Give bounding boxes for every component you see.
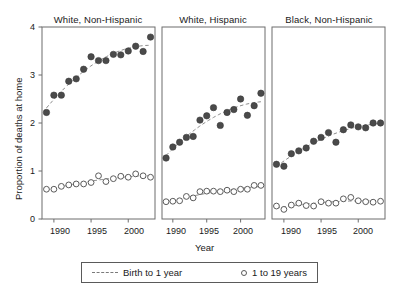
data-point-p2-s1-2002 [370, 199, 376, 205]
data-point-p0-s1-1997 [103, 179, 109, 185]
data-point-p1-s0-1997 [217, 122, 223, 128]
data-point-p0-s0-1998 [110, 51, 116, 57]
data-point-p2-s0-1995 [318, 134, 324, 140]
data-point-p0-s1-2002 [140, 173, 146, 179]
data-point-p1-s0-1992 [183, 134, 189, 140]
data-point-p1-s1-2002 [251, 183, 257, 189]
data-point-p1-s1-2000 [238, 186, 244, 192]
data-point-p0-s1-2000 [125, 174, 131, 180]
data-point-p0-s1-1995 [88, 180, 94, 186]
data-point-p0-s1-1998 [110, 176, 116, 182]
data-point-p0-s0-2003 [147, 34, 153, 40]
data-point-p2-s0-1992 [296, 148, 302, 154]
data-point-p0-s1-2001 [133, 171, 139, 177]
data-point-p0-s1-1999 [118, 173, 124, 179]
data-point-p0-s0-1991 [58, 92, 64, 98]
data-point-p0-s1-2003 [148, 174, 154, 180]
data-point-p0-s0-1992 [66, 78, 72, 84]
data-point-p0-s0-1990 [51, 92, 57, 98]
data-point-p0-s0-1993 [73, 76, 79, 82]
data-point-p2-s1-1995 [318, 199, 324, 205]
data-point-p1-s1-1999 [231, 189, 237, 195]
data-point-p1-s1-1989 [163, 199, 169, 205]
data-point-p2-s1-2000 [355, 198, 361, 204]
data-point-p2-s0-1989 [273, 161, 279, 167]
dashed-line-icon [92, 272, 118, 273]
data-point-p0-s1-1990 [51, 186, 57, 192]
data-point-p2-s1-1989 [274, 203, 280, 209]
data-point-p1-s1-2001 [244, 186, 250, 192]
data-point-p1-s0-2001 [244, 112, 250, 118]
data-point-p0-s0-1989 [43, 109, 49, 115]
data-point-p2-s0-2001 [362, 125, 368, 131]
data-point-p2-s1-2001 [363, 199, 369, 205]
data-point-p1-s0-1989 [163, 155, 169, 161]
data-point-p0-s0-1996 [95, 57, 101, 63]
data-point-p0-s0-1995 [88, 54, 94, 60]
data-point-p2-s0-2003 [377, 120, 383, 126]
data-point-p2-s1-2003 [378, 198, 384, 204]
data-point-p0-s0-2000 [125, 48, 131, 54]
legend: Birth to 1 year 1 to 19 years [81, 262, 318, 283]
data-point-p2-s0-1996 [325, 129, 331, 135]
data-point-p1-s0-1999 [231, 106, 237, 112]
data-point-p0-s1-1996 [96, 173, 102, 179]
data-point-p1-s1-1993 [190, 195, 196, 201]
data-point-p1-s1-1997 [217, 189, 223, 195]
data-point-p2-s0-1991 [288, 151, 294, 157]
data-point-p1-s1-2003 [258, 183, 264, 189]
data-point-p1-s1-1992 [183, 194, 189, 200]
data-point-p1-s0-1991 [176, 139, 182, 145]
data-point-p1-s0-2000 [237, 96, 243, 102]
data-point-p1-s1-1991 [177, 198, 183, 204]
data-point-p1-s0-2003 [258, 90, 264, 96]
data-point-p2-s0-1990 [281, 163, 287, 169]
data-point-p2-s1-1993 [303, 203, 309, 209]
plot-canvas [0, 0, 400, 293]
data-point-p2-s0-1997 [333, 139, 339, 145]
data-point-p2-s0-2000 [355, 124, 361, 130]
data-point-p2-s0-2002 [370, 120, 376, 126]
data-point-p2-s0-1998 [340, 127, 346, 133]
legend-label-1: 1 to 19 years [252, 267, 307, 278]
data-point-p0-s0-2002 [140, 48, 146, 54]
legend-item-birth-to-1-year[interactable]: Birth to 1 year [92, 267, 182, 278]
data-point-p2-s1-1991 [288, 202, 294, 208]
data-point-p1-s0-1994 [197, 117, 203, 123]
data-point-p1-s1-1996 [211, 188, 217, 194]
data-point-p1-s1-1995 [204, 188, 210, 194]
panel-frame-0 [42, 27, 155, 219]
data-point-p2-s0-1993 [303, 145, 309, 151]
legend-item-1-to-19-years[interactable]: 1 to 19 years [241, 267, 307, 278]
data-point-p1-s1-1990 [170, 198, 176, 204]
data-point-p1-s1-1998 [224, 187, 230, 193]
data-point-p0-s1-1989 [44, 186, 50, 192]
data-point-p0-s1-1993 [73, 181, 79, 187]
data-point-p1-s0-1995 [204, 113, 210, 119]
data-point-p2-s0-1994 [310, 138, 316, 144]
data-point-p1-s0-1993 [190, 133, 196, 139]
data-point-p0-s1-1991 [58, 183, 64, 189]
data-point-p0-s0-1994 [80, 66, 86, 72]
data-point-p2-s1-1996 [326, 200, 332, 206]
data-point-p0-s0-2001 [132, 43, 138, 49]
data-point-p1-s0-1996 [210, 104, 216, 110]
open-circle-icon [241, 270, 247, 276]
figure-container: Proportion of deaths at home Year White,… [0, 0, 400, 293]
data-point-p0-s0-1999 [118, 52, 124, 58]
data-point-p1-s0-1990 [170, 144, 176, 150]
data-point-p2-s0-1999 [348, 122, 354, 128]
data-point-p2-s1-1997 [333, 200, 339, 206]
data-point-p2-s1-1992 [296, 200, 302, 206]
data-point-p0-s0-1997 [103, 57, 109, 63]
data-point-p1-s0-2002 [251, 103, 257, 109]
data-point-p1-s1-1994 [197, 189, 203, 195]
panel-frame-2 [272, 27, 385, 219]
data-point-p1-s0-1998 [224, 109, 230, 115]
data-point-p2-s1-1990 [281, 207, 287, 213]
data-point-p2-s1-1999 [348, 195, 354, 201]
data-point-p0-s1-1994 [81, 181, 87, 187]
data-point-p2-s1-1998 [340, 196, 346, 202]
data-point-p2-s1-1994 [311, 203, 317, 209]
legend-label-0: Birth to 1 year [123, 267, 182, 278]
